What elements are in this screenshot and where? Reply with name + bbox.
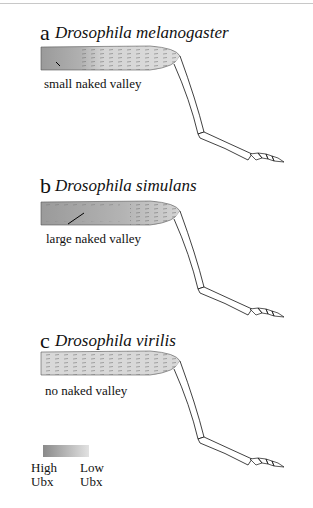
leg-diagram-b	[0, 195, 313, 325]
annotation-a: small naked valley	[44, 77, 141, 90]
annotation-b: large naked valley	[46, 232, 141, 245]
ubx-gradient-legend	[43, 445, 89, 457]
panel-letter-b: b	[40, 175, 51, 197]
legend-high-label: High Ubx	[31, 461, 57, 489]
species-label-b: Drosophila simulans	[55, 177, 197, 194]
legend-high-line1: High	[31, 461, 57, 475]
legend-low-line1: Low	[80, 461, 104, 475]
tibia-a	[174, 56, 204, 134]
annotation-c: no naked valley	[45, 384, 127, 397]
femur-a	[41, 46, 180, 70]
legend-low-label: Low Ubx	[80, 461, 104, 489]
tarsal-segments-c	[250, 458, 284, 467]
legend-high-line2: Ubx	[31, 475, 57, 489]
tarsus1-b	[198, 287, 252, 315]
leg-diagram-a	[0, 40, 313, 170]
top-border	[0, 3, 313, 4]
tibia-c	[174, 361, 204, 439]
tarsal-segments-b	[250, 308, 284, 317]
tarsus1-a	[198, 132, 252, 160]
tarsus1-c	[198, 437, 252, 465]
tarsal-segments-a	[250, 153, 284, 162]
species-label-a: Drosophila melanogaster	[55, 24, 229, 41]
tibia-b	[174, 211, 204, 289]
legend-low-line2: Ubx	[80, 475, 104, 489]
